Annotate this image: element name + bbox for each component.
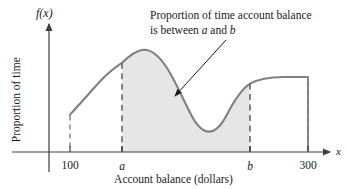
density-function-figure: f(x) x Proportion of time Account balanc… xyxy=(0,0,347,189)
y-axis-title: Proportion of time xyxy=(11,45,23,155)
annotation-conjunction: and xyxy=(207,24,229,36)
x-tick-label-300: 300 xyxy=(299,160,316,172)
x-tick-label-b: b xyxy=(247,161,253,173)
shaded-region-a-to-b xyxy=(122,50,250,152)
annotation-variable-b: b xyxy=(230,24,236,36)
x-axis-title: Account balance (dollars) xyxy=(0,174,347,186)
shaded-region-annotation: Proportion of time account balance is be… xyxy=(150,8,340,37)
annotation-line-2-prefix: is between xyxy=(150,24,202,36)
annotation-arrow xyxy=(175,40,226,96)
x-axis-symbol-label: x xyxy=(336,146,341,157)
x-tick-label-a: a xyxy=(119,161,125,173)
annotation-line-1: Proportion of time account balance xyxy=(150,9,312,21)
y-axis-symbol-label: f(x) xyxy=(36,7,53,19)
x-tick-label-100: 100 xyxy=(61,160,78,172)
